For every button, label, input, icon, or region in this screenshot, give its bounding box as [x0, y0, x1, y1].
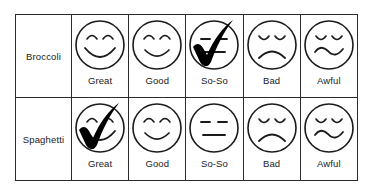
rating-cell-spaghetti-good[interactable]: Good — [129, 98, 186, 181]
rating-label: Good — [145, 76, 169, 86]
rating-cell-broccoli-awful[interactable]: Awful — [300, 15, 357, 98]
smile-face-icon — [130, 17, 184, 75]
face-graphic-wrap — [130, 17, 184, 75]
face-graphic-wrap — [302, 100, 356, 158]
rating-table: Broccoli — [15, 14, 358, 181]
face-graphic-wrap — [187, 100, 241, 158]
rating-option[interactable]: Great — [72, 15, 128, 97]
rating-option[interactable]: Great — [72, 98, 128, 180]
rating-cell-broccoli-good[interactable]: Good — [129, 15, 186, 98]
smile-face-icon — [130, 100, 184, 158]
rating-table-body: Broccoli — [16, 15, 358, 181]
rating-option[interactable]: So-So — [186, 15, 242, 97]
neutral-face-icon — [187, 17, 241, 75]
big-smile-face-icon — [73, 17, 127, 75]
rating-cell-broccoli-great[interactable]: Great — [72, 15, 129, 98]
rating-option[interactable]: So-So — [186, 98, 242, 180]
rating-label: Bad — [263, 76, 280, 86]
rating-cell-spaghetti-soso[interactable]: So-So — [186, 98, 243, 181]
row-label-text: Spaghetti — [23, 134, 65, 145]
rating-option[interactable]: Good — [129, 15, 185, 97]
rating-label: Awful — [317, 76, 341, 86]
frown-face-icon — [245, 100, 299, 158]
face-graphic-wrap — [245, 17, 299, 75]
rating-cell-broccoli-bad[interactable]: Bad — [243, 15, 300, 98]
rating-option[interactable]: Good — [129, 98, 185, 180]
wavy-frown-face-icon — [302, 17, 356, 75]
rating-option[interactable]: Bad — [244, 98, 300, 180]
table-row: Spaghetti — [16, 98, 358, 181]
face-graphic-wrap — [73, 100, 127, 158]
table-row: Broccoli — [16, 15, 358, 98]
neutral-face-icon — [187, 100, 241, 158]
rating-cell-spaghetti-great[interactable]: Great — [72, 98, 129, 181]
rating-cell-spaghetti-awful[interactable]: Awful — [300, 98, 357, 181]
face-graphic-wrap — [187, 17, 241, 75]
rating-option[interactable]: Awful — [301, 15, 357, 97]
row-label-cell-spaghetti: Spaghetti — [16, 98, 72, 181]
rating-option[interactable]: Awful — [301, 98, 357, 180]
rating-label: Awful — [317, 159, 341, 169]
rating-cell-broccoli-soso[interactable]: So-So — [186, 15, 243, 98]
rating-label: Bad — [263, 159, 280, 169]
face-graphic-wrap — [245, 100, 299, 158]
row-label-text: Broccoli — [26, 51, 61, 62]
face-graphic-wrap — [302, 17, 356, 75]
rating-label: Good — [145, 159, 169, 169]
wavy-frown-face-icon — [302, 100, 356, 158]
big-smile-face-icon — [73, 100, 127, 158]
rating-cell-spaghetti-bad[interactable]: Bad — [243, 98, 300, 181]
rating-label: Great — [88, 76, 112, 86]
rating-label: So-So — [201, 76, 228, 86]
face-graphic-wrap — [73, 17, 127, 75]
rating-label: Great — [88, 159, 112, 169]
face-graphic-wrap — [130, 100, 184, 158]
smiley-rating-survey: Broccoli — [0, 0, 366, 191]
row-label-cell-broccoli: Broccoli — [16, 15, 72, 98]
rating-label: So-So — [201, 159, 228, 169]
frown-face-icon — [245, 17, 299, 75]
rating-option[interactable]: Bad — [244, 15, 300, 97]
